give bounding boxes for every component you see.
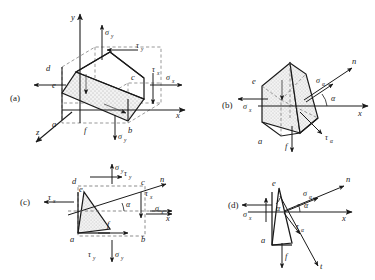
svg-text:τ: τ: [48, 193, 52, 202]
panel-b-vertex-e: e: [252, 76, 256, 86]
panel-a-vertex-d: d: [46, 63, 51, 73]
panel-a-axis-x-label: x: [175, 110, 180, 120]
svg-text:σ: σ: [155, 204, 160, 213]
panel-d-vertex-f: f: [285, 251, 289, 261]
panel-d-axis-x-label: x: [341, 213, 346, 223]
svg-text:y: y: [123, 137, 127, 143]
svg-text:τ: τ: [296, 222, 300, 231]
panel-d-axis-n-label: n: [346, 174, 350, 184]
panel-d-vertex-e: e: [272, 178, 276, 188]
panel-b: (b) x n α σ α τ α σ x e a f: [222, 56, 368, 152]
svg-text:y: y: [110, 33, 114, 39]
panel-d: (d) n t x α α σ α τ α σ x e a f: [228, 174, 352, 271]
svg-text:τ: τ: [152, 65, 156, 74]
panel-d-vertex-a: a: [261, 235, 265, 245]
svg-text:σ: σ: [115, 250, 120, 259]
panel-c-vertex-a: a: [70, 234, 74, 244]
svg-text:x: x: [149, 194, 153, 200]
panel-b-sigma-x-label: σ x: [243, 102, 252, 113]
svg-text:y: y: [120, 255, 124, 261]
panel-d-sigma-alpha-arrow: [284, 198, 318, 212]
panel-d-wedge-triangle: [272, 188, 292, 245]
panel-c-vertex-c: c: [141, 177, 145, 187]
panel-c-tau-x-right-label: τ x: [145, 189, 153, 200]
panel-b-angle-label: α: [331, 94, 336, 103]
figure-canvas: (a) y x z σ y τ y τ x σ x σ y d e c a f …: [0, 0, 375, 280]
panel-b-angle-arc: [322, 94, 327, 106]
panel-c-angle-arc: [122, 203, 124, 211]
svg-text:τ: τ: [88, 250, 92, 259]
panel-b-vertex-f: f: [285, 141, 289, 151]
panel-d-label: (d): [228, 200, 239, 210]
svg-text:x: x: [52, 198, 56, 204]
panel-c-tau-y-top-label: τ y: [124, 169, 132, 180]
svg-text:x: x: [248, 107, 252, 113]
panel-c-sigma-y-top-label: σ y: [115, 163, 124, 174]
svg-text:x: x: [171, 78, 175, 84]
panel-c-sigma-y-bottom-label: σ y: [115, 250, 124, 261]
panel-c-axis-x-label: x: [165, 213, 170, 223]
svg-text:τ: τ: [325, 133, 329, 142]
svg-text:σ: σ: [316, 76, 321, 85]
panel-c-vertex-e: e: [79, 184, 83, 194]
svg-text:α: α: [330, 138, 333, 144]
panel-c-tau-y-bottom-label: τ y: [88, 250, 96, 261]
svg-text:τ: τ: [145, 189, 149, 198]
panel-a-vertex-a: a: [52, 119, 56, 129]
panel-a-label: (a): [10, 93, 20, 103]
svg-text:σ: σ: [243, 210, 248, 219]
svg-text:α: α: [322, 81, 325, 87]
panel-d-sigma-alpha-label: σ α: [303, 189, 312, 200]
svg-text:σ: σ: [105, 28, 110, 37]
panel-c-vertex-f: f: [107, 219, 111, 229]
svg-text:τ: τ: [124, 169, 128, 178]
panel-d-axis-t-label: t: [320, 261, 323, 271]
panel-c-label: (c): [20, 197, 30, 207]
svg-text:σ: σ: [115, 163, 120, 172]
panel-d-axis-n: [284, 186, 344, 211]
panel-a-axis-y-label: y: [70, 12, 75, 22]
svg-text:σ: σ: [243, 102, 248, 111]
panel-c-axis-n-label: n: [160, 174, 164, 184]
panel-a-sigma-y-label: σ y: [105, 28, 114, 39]
svg-text:α: α: [309, 194, 312, 200]
panel-b-axis-n: [304, 68, 352, 100]
panel-c-sigma-x-right-label: σ x: [155, 204, 164, 215]
panel-b-vertex-a: a: [258, 136, 262, 146]
panel-a-vertex-f: f: [84, 125, 88, 135]
panel-a: (a) y x z σ y τ y τ x σ x σ y d e c a f …: [10, 12, 185, 143]
panel-a-vertex-c: c: [131, 72, 135, 82]
panel-b-axis-n-label: n: [352, 56, 356, 66]
svg-text:y: y: [140, 46, 144, 52]
svg-text:x: x: [156, 70, 160, 76]
panel-a-tau-x-label: τ x: [152, 65, 160, 76]
panel-b-label: (b): [222, 100, 233, 110]
panel-c-vertex-b: b: [141, 234, 145, 244]
svg-text:σ: σ: [166, 73, 171, 82]
panel-c-wedge-triangle: [78, 192, 110, 233]
panel-d-tau-alpha-label: τ α: [296, 222, 304, 233]
svg-text:y: y: [92, 255, 96, 261]
svg-text:x: x: [160, 209, 164, 215]
svg-text:y: y: [128, 174, 132, 180]
panel-a-vertex-b: b: [128, 125, 132, 135]
panel-a-sigma-x-label: σ x: [166, 73, 175, 84]
panel-a-tau-y-label: τ y: [136, 41, 144, 52]
svg-text:τ: τ: [136, 41, 140, 50]
stress-element-figure: (a) y x z σ y τ y τ x σ x σ y d e c a f …: [0, 0, 375, 280]
panel-a-axis-z-label: z: [35, 127, 40, 137]
svg-text:α: α: [301, 227, 304, 233]
panel-c: (c) n x α σ y τ y τ x τ x σ x τ y σ y: [20, 163, 172, 262]
svg-text:σ: σ: [303, 189, 308, 198]
panel-a-sigma-y-bottom-label: σ y: [118, 132, 127, 143]
panel-c-angle-label: α: [126, 200, 131, 209]
svg-text:x: x: [248, 215, 252, 221]
panel-b-axis-x-label: x: [357, 108, 362, 118]
panel-a-vertex-e: e: [52, 80, 56, 90]
panel-b-sigma-alpha-label: σ α: [316, 76, 325, 87]
svg-text:σ: σ: [118, 132, 123, 141]
panel-c-vertex-d: d: [72, 176, 77, 186]
panel-b-tau-alpha-label: τ α: [325, 133, 333, 144]
